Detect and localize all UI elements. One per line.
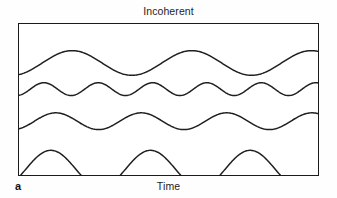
wave-trace-3 [19,113,318,130]
wave-trace-2 [19,83,318,96]
wave-trace-4 [19,150,318,175]
chart-title: Incoherent [0,5,337,18]
wave-traces-group [19,24,318,175]
wave-trace-1 [19,51,318,76]
x-axis-label: Time [18,180,319,193]
plot-area [18,23,319,176]
figure-panel: Incoherent a Time [0,0,337,198]
